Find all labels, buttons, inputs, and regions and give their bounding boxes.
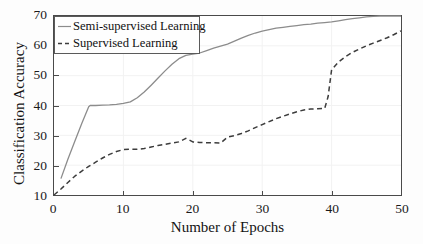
chart-figure: 0102030405010203040506070 Number of Epoc… — [0, 0, 423, 244]
y-tick-mark — [54, 136, 59, 137]
x-tick-label: 20 — [186, 202, 200, 216]
legend-swatch-solid-icon — [58, 22, 71, 31]
y-tick-mark — [54, 106, 59, 107]
legend-item-semi-supervised: Semi-supervised Learning — [58, 18, 199, 35]
x-tick-mark — [193, 191, 194, 196]
x-axis-title: Number of Epochs — [53, 219, 402, 236]
legend-item-supervised: Supervised Learning — [58, 35, 199, 52]
x-tick-label: 10 — [116, 202, 130, 216]
legend-label-semi-supervised: Semi-supervised Learning — [73, 20, 206, 33]
x-tick-label: 30 — [256, 202, 270, 216]
x-tick-mark — [123, 191, 124, 196]
legend-swatch-dashed-icon — [58, 39, 71, 48]
x-tick-label: 50 — [395, 202, 409, 216]
y-axis-title: Classification Accuracy — [11, 19, 28, 209]
x-tick-label: 0 — [50, 202, 57, 216]
y-tick-mark — [54, 166, 59, 167]
x-tick-mark — [332, 191, 333, 196]
series-line-1 — [54, 31, 401, 195]
y-tick-mark — [54, 75, 59, 76]
legend-box: Semi-supervised Learning Supervised Lear… — [54, 16, 200, 54]
x-tick-mark — [262, 191, 263, 196]
legend-label-supervised: Supervised Learning — [73, 37, 178, 50]
x-tick-label: 40 — [325, 202, 339, 216]
